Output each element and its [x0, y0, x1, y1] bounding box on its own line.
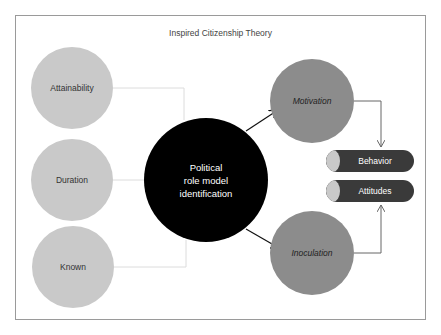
node-motivation: Motivation: [270, 59, 354, 143]
outcome-label: Behavior: [358, 156, 392, 166]
outcome-attitudes: Attitudes: [326, 180, 414, 202]
cylinder-cap: [326, 150, 340, 172]
connector-attainability: [113, 88, 184, 120]
node-label-line: Political: [180, 161, 233, 174]
node-duration: Duration: [31, 139, 113, 221]
connector-known: [114, 240, 186, 267]
node-label: Duration: [56, 175, 88, 185]
node-political-role-model-identification: Political role model identification: [144, 118, 268, 242]
arrow-motivation-to-behavior: [354, 101, 381, 147]
node-label: Inoculation: [291, 248, 332, 258]
outcome-label: Attitudes: [358, 186, 391, 196]
outcome-behavior: Behavior: [326, 150, 414, 172]
node-known: Known: [32, 226, 114, 308]
node-inoculation: Inoculation: [270, 211, 354, 295]
node-label: Known: [60, 262, 86, 272]
node-label: Motivation: [293, 96, 332, 106]
arrow-inoculation-to-attitudes: [354, 205, 381, 253]
node-label: Attainability: [50, 83, 93, 93]
node-label-line: role model: [180, 174, 233, 187]
node-label-line: identification: [180, 187, 233, 200]
node-attainability: Attainability: [31, 47, 113, 129]
cylinder-cap: [326, 180, 340, 202]
